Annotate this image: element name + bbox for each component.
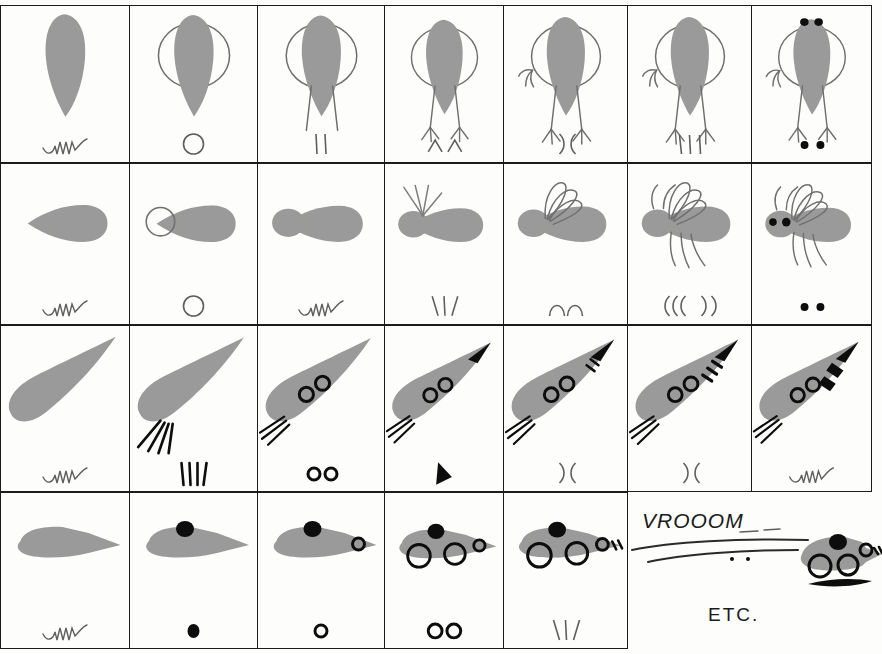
cell-fish-step-7[interactable] [752,325,872,492]
cell-insect-step-7[interactable] [752,163,872,325]
cell-bird-step-2[interactable] [130,5,258,163]
cell-car-step-5[interactable] [504,492,628,649]
glyph-two-small-rings [258,455,384,489]
glyph-solid-triangle [385,455,503,489]
vroom-label: VROOOM [642,509,744,533]
cell-insect-step-4[interactable] [385,163,504,325]
glyph-two-rings [385,612,503,646]
cell-insect-step-6[interactable] [628,163,752,325]
row-bird [0,5,872,163]
cell-fish-step-5[interactable] [504,325,628,492]
cell-bird-step-5[interactable] [504,5,628,163]
cell-insect-step-5[interactable] [504,163,628,325]
cell-fish-step-4[interactable] [385,325,504,492]
glyph-two-arcs [504,288,627,322]
glyph-squiggle [1,126,129,160]
row-insect [0,163,872,325]
glyph-four-slashes [130,455,257,489]
glyph-two-dots [752,126,871,160]
glyph-two-parens [628,455,751,489]
etc-label: ETC. [708,604,759,626]
cell-bird-step-1[interactable] [0,5,130,163]
cell-insect-step-3[interactable] [258,163,385,325]
glyph-squiggle [1,288,129,322]
cell-bird-step-3[interactable] [258,5,385,163]
cell-fish-step-3[interactable] [258,325,385,492]
glyph-two-strokes [258,126,384,160]
cell-bird-step-6[interactable] [628,5,752,163]
glyph-four-parens [628,288,751,322]
glyph-squiggle [752,455,871,489]
vroom-final-panel: VROOOM ETC. [630,492,882,649]
glyph-circle-outline [130,126,257,160]
row-fish [0,325,872,492]
glyph-squiggle [1,612,129,646]
glyph-two-parens [504,455,627,489]
cell-insect-step-2[interactable] [130,163,258,325]
glyph-three-slashes [385,288,503,322]
cell-insect-step-1[interactable] [0,163,130,325]
glyph-squiggle [1,455,129,489]
glyph-two-dots [752,288,871,322]
cell-car-step-4[interactable] [385,492,504,649]
glyph-squiggle [258,288,384,322]
cell-bird-step-7[interactable] [752,5,872,163]
row-car [0,492,628,649]
glyph-three-slashes [504,612,627,646]
glyph-circle-outline [130,288,257,322]
cell-car-step-3[interactable] [258,492,385,649]
cell-car-step-2[interactable] [130,492,258,649]
glyph-solid-dot [130,612,257,646]
cell-fish-step-2[interactable] [130,325,258,492]
glyph-two-carets [385,126,503,160]
cell-fish-step-6[interactable] [628,325,752,492]
glyph-two-parens [504,126,627,160]
glyph-three-strokes [628,126,751,160]
drawing-grid-sheet: VROOOM ETC. [0,0,882,654]
cell-fish-step-1[interactable] [0,325,130,492]
cell-car-step-1[interactable] [0,492,130,649]
glyph-small-ring [258,612,384,646]
cell-bird-step-4[interactable] [385,5,504,163]
